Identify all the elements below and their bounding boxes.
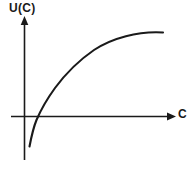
utility-function-figure: U(C) C — [0, 0, 195, 170]
arrow-right-icon — [167, 113, 176, 121]
x-axis-label: C — [178, 108, 187, 120]
graph-canvas — [0, 0, 195, 170]
arrow-up-icon — [21, 16, 29, 25]
y-axis-label: U(C) — [9, 2, 36, 14]
utility-curve — [30, 32, 164, 146]
